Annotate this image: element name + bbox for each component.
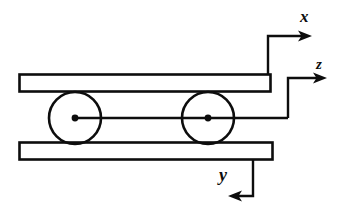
x-axis-line <box>268 36 306 75</box>
x-axis-label: x <box>300 8 309 25</box>
y-axis-label: y <box>219 166 227 184</box>
left-wheel-hub-icon <box>72 115 79 122</box>
right-wheel-hub-icon <box>205 115 212 122</box>
y-axis-line <box>234 160 253 196</box>
mechanics-diagram: x z y <box>0 0 344 214</box>
z-axis-label: z <box>316 57 322 72</box>
top-plate <box>20 75 271 92</box>
diagram-canvas <box>0 0 344 214</box>
bottom-plate <box>20 143 273 160</box>
z-axis-line <box>288 78 321 118</box>
